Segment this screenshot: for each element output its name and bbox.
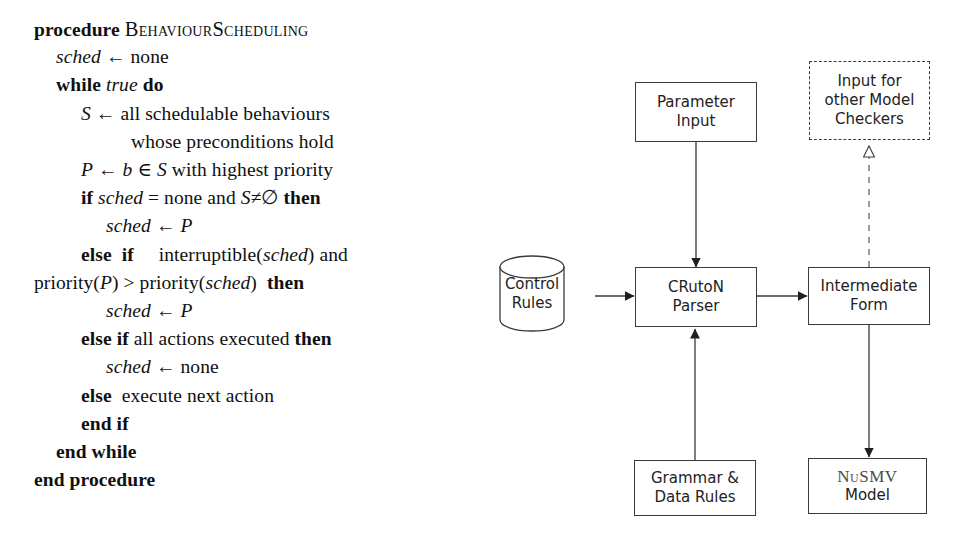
node-grammar-and-data-rules[interactable]: Grammar & Data Rules bbox=[634, 460, 756, 516]
code-token: ← bbox=[151, 300, 181, 321]
code-token: interruptible( bbox=[134, 244, 263, 265]
code-line: P ← b ∈ S with highest priority bbox=[81, 160, 333, 180]
nusmv-label-line2: Model bbox=[837, 486, 897, 505]
code-token: sched bbox=[205, 272, 250, 293]
code-token: execute next action bbox=[112, 385, 274, 406]
control-rules-cylinder bbox=[500, 256, 564, 331]
code-token: true bbox=[106, 74, 138, 95]
code-line: if sched = none and S≠∅ then bbox=[81, 188, 321, 208]
code-token: P bbox=[100, 272, 112, 293]
code-line: whose preconditions hold bbox=[131, 132, 334, 152]
other-checkers-label-line3: Checkers bbox=[825, 110, 915, 129]
code-token: whose preconditions hold bbox=[131, 131, 334, 152]
code-token: with highest priority bbox=[167, 159, 333, 180]
code-token bbox=[112, 244, 122, 265]
code-token: sched bbox=[56, 46, 101, 67]
node-input-for-other-model-checkers[interactable]: Input for other Model Checkers bbox=[809, 61, 930, 140]
cruton-parser-label-line2: Parser bbox=[668, 297, 724, 316]
code-token: P bbox=[180, 215, 192, 236]
code-line: procedure BehaviourScheduling bbox=[34, 19, 308, 40]
other-checkers-label-line2: other Model bbox=[825, 91, 915, 110]
cruton-parser-label-line1: CRutoN bbox=[668, 278, 724, 297]
code-token: if bbox=[122, 244, 134, 265]
code-line: end while bbox=[56, 442, 137, 462]
code-token: then bbox=[284, 187, 321, 208]
algorithm-pseudocode-block: procedure BehaviourSchedulingsched ← non… bbox=[0, 0, 470, 539]
code-token: then bbox=[295, 328, 332, 349]
code-token: ) and bbox=[308, 244, 348, 265]
code-token: BehaviourScheduling bbox=[125, 18, 309, 40]
code-token: S bbox=[81, 103, 91, 124]
nusmv-label-line1: NuSMV bbox=[837, 467, 897, 486]
node-nusmv-model[interactable]: NuSMV Model bbox=[808, 458, 927, 514]
code-token: do bbox=[143, 74, 164, 95]
code-token: ∈ bbox=[132, 159, 157, 180]
code-token: b bbox=[123, 159, 133, 180]
code-token: ≠∅ bbox=[251, 187, 284, 208]
code-token: priority( bbox=[34, 272, 100, 293]
code-token: ← bbox=[151, 215, 181, 236]
code-token: S bbox=[157, 159, 167, 180]
parameter-input-label-line1: Parameter bbox=[657, 93, 735, 112]
node-cruton-parser[interactable]: CRutoN Parser bbox=[635, 267, 757, 327]
code-token: ← none bbox=[151, 356, 219, 377]
code-token: all actions executed bbox=[134, 328, 295, 349]
code-line: else execute next action bbox=[81, 386, 274, 406]
code-token: = none and bbox=[143, 187, 241, 208]
code-token: end if bbox=[81, 413, 129, 434]
cruton-toolchain-diagram: Control Rules Parameter Input Input for … bbox=[470, 0, 968, 539]
parameter-input-label-line2: Input bbox=[657, 112, 735, 131]
code-token: sched bbox=[263, 244, 308, 265]
code-token: else bbox=[81, 244, 112, 265]
code-token: ) bbox=[250, 272, 267, 293]
code-token: ) > priority( bbox=[112, 272, 206, 293]
other-checkers-label-line1: Input for bbox=[825, 72, 915, 91]
code-line: end if bbox=[81, 414, 129, 434]
code-token: ← none bbox=[101, 46, 169, 67]
code-line: S ← all schedulable behaviours bbox=[81, 104, 330, 124]
code-token: then bbox=[267, 272, 304, 293]
code-line: sched ← none bbox=[106, 357, 219, 377]
node-intermediate-form[interactable]: Intermediate Form bbox=[808, 267, 930, 325]
code-token: procedure bbox=[34, 19, 125, 40]
code-line: while true do bbox=[56, 75, 164, 95]
code-token: while bbox=[56, 74, 106, 95]
intermediate-form-label-line2: Form bbox=[821, 296, 918, 315]
code-line: else if all actions executed then bbox=[81, 329, 332, 349]
code-token: end procedure bbox=[34, 469, 155, 490]
grammar-label-line1: Grammar & bbox=[651, 469, 739, 488]
code-token: end while bbox=[56, 441, 137, 462]
code-token: else if bbox=[81, 328, 134, 349]
code-line: priority(P) > priority(sched) then bbox=[34, 273, 304, 293]
code-token: sched bbox=[98, 187, 143, 208]
node-parameter-input[interactable]: Parameter Input bbox=[635, 82, 757, 142]
intermediate-form-label-line1: Intermediate bbox=[821, 277, 918, 296]
code-line: end procedure bbox=[34, 470, 155, 490]
code-token: else bbox=[81, 385, 112, 406]
code-token: S bbox=[241, 187, 251, 208]
code-token: P bbox=[180, 300, 192, 321]
code-token: sched bbox=[106, 215, 151, 236]
code-token: sched bbox=[106, 356, 151, 377]
code-token: ← all schedulable behaviours bbox=[91, 103, 330, 124]
code-token: sched bbox=[106, 300, 151, 321]
code-token: P bbox=[81, 159, 93, 180]
code-line: sched ← P bbox=[106, 301, 192, 321]
code-line: else if interruptible(sched) and bbox=[81, 245, 348, 265]
code-token: ← bbox=[93, 159, 123, 180]
code-line: sched ← P bbox=[106, 216, 192, 236]
code-token: if bbox=[81, 187, 98, 208]
grammar-label-line2: Data Rules bbox=[651, 488, 739, 507]
code-line: sched ← none bbox=[56, 47, 169, 67]
